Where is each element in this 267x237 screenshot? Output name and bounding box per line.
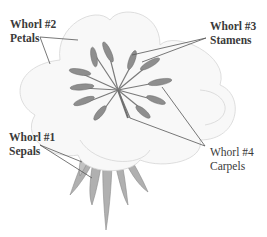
label-whorl-2-part: Petals [10,31,56,45]
label-whorl-3-part: Stamens [210,33,256,47]
label-whorl-4-part: Carpels [210,159,254,173]
label-whorl-2-title: Whorl #2 [10,17,56,31]
label-whorl-2: Whorl #2 Petals [10,17,56,45]
label-whorl-4: Whorl #4 Carpels [210,145,254,173]
label-whorl-3: Whorl #3 Stamens [210,19,256,47]
label-whorl-1: Whorl #1 Sepals [9,130,55,158]
label-whorl-1-title: Whorl #1 [9,130,55,144]
label-whorl-1-part: Sepals [9,144,55,158]
label-whorl-4-title: Whorl #4 [210,145,254,159]
label-whorl-3-title: Whorl #3 [210,19,256,33]
